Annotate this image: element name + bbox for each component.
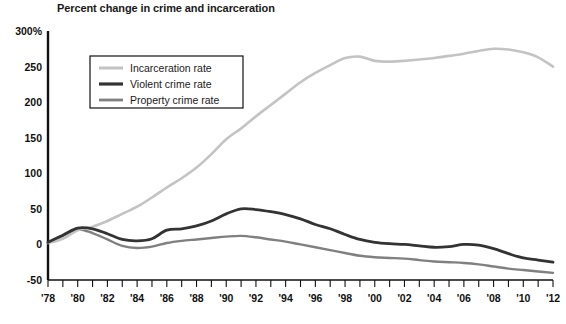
x-tick-label: '00: [368, 292, 382, 304]
legend-label-0: Incarceration rate: [130, 62, 212, 74]
x-tick-label: '10: [516, 292, 530, 304]
y-tick-label: 150: [24, 132, 42, 144]
x-tick-label: '80: [71, 292, 85, 304]
chart-title: Percent change in crime and incarceratio…: [57, 2, 275, 14]
x-tick-label: '98: [338, 292, 352, 304]
x-tick-label: '92: [249, 292, 263, 304]
x-tick-label: '78: [41, 292, 55, 304]
y-tick-label: 300%: [15, 25, 43, 37]
y-tick-label: 250: [24, 61, 42, 73]
x-tick-label: '12: [546, 292, 560, 304]
series-line-violent-crime-rate: [48, 209, 553, 263]
x-tick-label: '08: [486, 292, 500, 304]
chart-plot: 300%250200150100500-50'78'80'82'84'86'88…: [0, 0, 566, 324]
x-tick-label: '02: [397, 292, 411, 304]
x-tick-label: '86: [160, 292, 174, 304]
y-tick-label: 200: [24, 96, 42, 108]
y-tick-label: -50: [27, 274, 42, 286]
x-tick-label: '04: [427, 292, 441, 304]
chart-container: Percent change in crime and incarceratio…: [0, 0, 566, 324]
y-tick-label: 50: [30, 203, 42, 215]
x-tick-label: '84: [130, 292, 144, 304]
legend-label-1: Violent crime rate: [130, 78, 212, 90]
x-tick-label: '82: [100, 292, 114, 304]
y-tick-label: 100: [24, 167, 42, 179]
y-tick-label: 0: [36, 238, 42, 250]
x-tick-label: '88: [189, 292, 203, 304]
x-tick-label: '06: [457, 292, 471, 304]
x-tick-label: '94: [279, 292, 293, 304]
legend-label-2: Property crime rate: [130, 94, 219, 106]
x-tick-label: '96: [308, 292, 322, 304]
series-line-property-crime-rate: [48, 229, 553, 272]
x-tick-label: '90: [219, 292, 233, 304]
